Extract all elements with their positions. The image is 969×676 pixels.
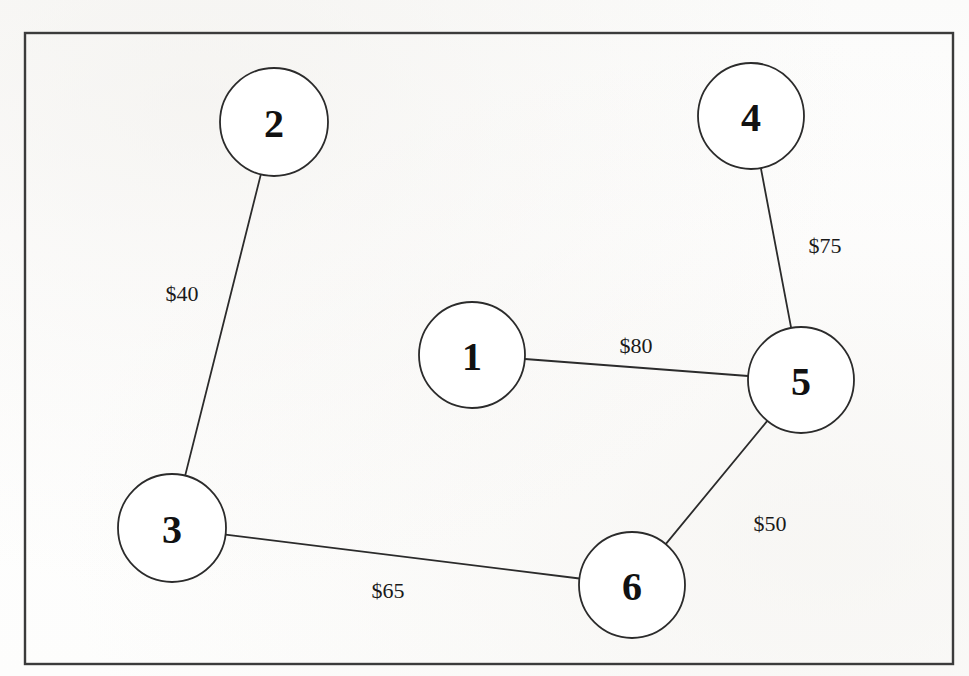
- node-label: 2: [264, 101, 284, 146]
- graph-node[interactable]: 1: [419, 302, 525, 408]
- graph-edge: [666, 421, 768, 544]
- node-label: 3: [162, 507, 182, 552]
- graph-edge: [185, 174, 261, 475]
- edge-weight-label: $65: [372, 578, 405, 603]
- graph-edge: [226, 535, 580, 579]
- graph-figure: 123456 $40$75$80$50$65: [0, 0, 969, 676]
- node-label: 6: [622, 564, 642, 609]
- graph-node[interactable]: 5: [748, 327, 854, 433]
- edge-weight-label: $80: [620, 333, 653, 358]
- graph-edge: [525, 359, 748, 376]
- graph-node[interactable]: 3: [118, 474, 226, 582]
- edge-weight-label: $50: [754, 511, 787, 536]
- node-label: 1: [462, 334, 482, 379]
- diagram-canvas: 123456 $40$75$80$50$65: [0, 0, 969, 676]
- edge-labels-layer: $40$75$80$50$65: [166, 233, 842, 603]
- graph-node[interactable]: 4: [698, 63, 804, 169]
- edge-weight-label: $40: [166, 281, 199, 306]
- edge-weight-label: $75: [809, 233, 842, 258]
- nodes-layer: 123456: [118, 63, 854, 638]
- graph-node[interactable]: 6: [579, 532, 685, 638]
- graph-node[interactable]: 2: [220, 68, 328, 176]
- node-label: 5: [791, 359, 811, 404]
- graph-edge: [761, 168, 791, 328]
- node-label: 4: [741, 95, 761, 140]
